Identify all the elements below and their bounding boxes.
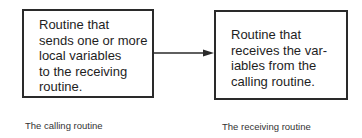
receiving-routine-box: Routine that receives the var- iables fr…	[214, 10, 348, 100]
calling-routine-caption: The calling routine	[25, 120, 103, 131]
calling-routine-description: Routine that sends one or more local var…	[39, 17, 147, 95]
receiving-routine-description: Routine that receives the var- iables fr…	[231, 27, 327, 89]
calling-routine-box: Routine that sends one or more local var…	[22, 9, 154, 98]
arrow-icon	[153, 47, 215, 59]
receiving-routine-caption: The receiving routine	[222, 121, 311, 132]
